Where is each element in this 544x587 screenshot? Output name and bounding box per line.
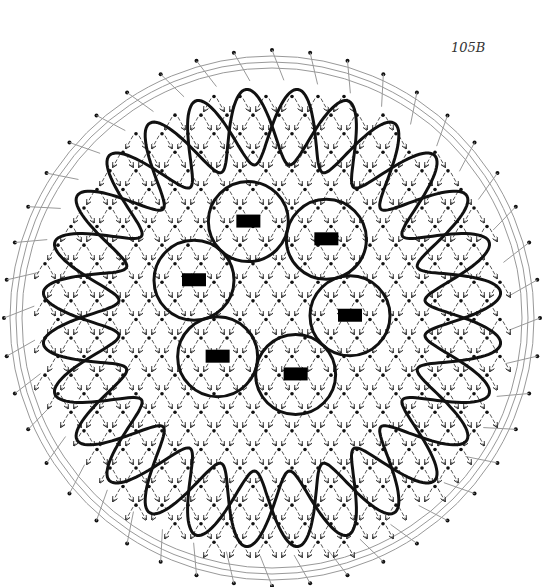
outer-loops (44, 90, 501, 547)
outer-rings (10, 56, 534, 580)
lace-diagram (0, 0, 544, 587)
inner-circles (154, 182, 390, 415)
